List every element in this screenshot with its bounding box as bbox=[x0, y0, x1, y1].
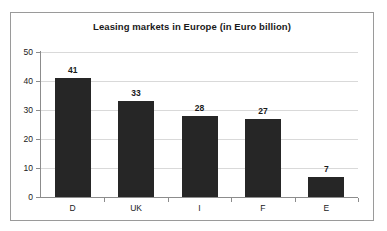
y-axis-tick bbox=[36, 197, 41, 198]
bar-value-label: 41 bbox=[53, 65, 93, 75]
y-axis-tick bbox=[36, 52, 41, 53]
y-axis-tick bbox=[36, 81, 41, 82]
bar-value-label: 33 bbox=[116, 88, 156, 98]
y-axis-tick bbox=[36, 139, 41, 140]
y-axis-label: 50 bbox=[11, 47, 33, 57]
gridline bbox=[41, 52, 358, 53]
bar-i[interactable] bbox=[182, 116, 218, 197]
x-axis-tick bbox=[168, 198, 169, 202]
bar-e[interactable] bbox=[308, 177, 344, 197]
x-axis-label-i: I bbox=[180, 203, 220, 213]
y-axis-label: 10 bbox=[11, 163, 33, 173]
y-axis-tick bbox=[36, 168, 41, 169]
y-axis-label: 40 bbox=[11, 76, 33, 86]
x-axis-tick bbox=[104, 198, 105, 202]
x-axis-line bbox=[40, 197, 358, 198]
x-axis-tick bbox=[231, 198, 232, 202]
bar-value-label: 27 bbox=[243, 106, 283, 116]
y-axis-tick bbox=[36, 110, 41, 111]
x-axis-label-d: D bbox=[53, 203, 93, 213]
x-axis-label-f: F bbox=[243, 203, 283, 213]
y-axis-label: 20 bbox=[11, 134, 33, 144]
bar-f[interactable] bbox=[245, 119, 281, 197]
y-axis-label: 0 bbox=[11, 192, 33, 202]
x-axis-tick bbox=[358, 198, 359, 202]
y-axis-label: 30 bbox=[11, 105, 33, 115]
bar-value-label: 28 bbox=[180, 103, 220, 113]
x-axis-label-uk: UK bbox=[116, 203, 156, 213]
x-axis-tick bbox=[295, 198, 296, 202]
chart-title: Leasing markets in Europe (in Euro billi… bbox=[10, 21, 374, 32]
bar-value-label: 7 bbox=[306, 164, 346, 174]
bar-uk[interactable] bbox=[118, 101, 154, 197]
chart-figure: Leasing markets in Europe (in Euro billi… bbox=[0, 0, 387, 231]
x-axis-label-e: E bbox=[306, 203, 346, 213]
bar-d[interactable] bbox=[55, 78, 91, 197]
